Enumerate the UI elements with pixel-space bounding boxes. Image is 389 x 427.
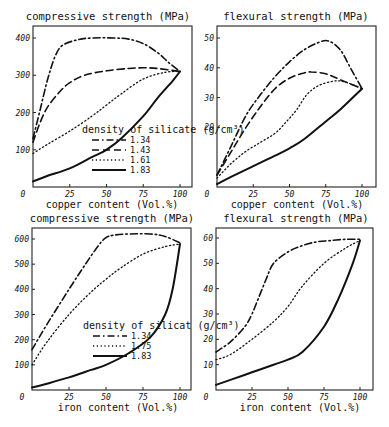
x-tick-label: 0 [205, 190, 210, 199]
x-tick-label: 0 [204, 393, 209, 402]
legend-entry-label: 1.61 [130, 155, 150, 165]
figure: compressive strength (MPa) copper conten… [0, 0, 389, 427]
y-tick-label: 30 [203, 94, 214, 103]
legend-entry-label: 1.43 [130, 145, 150, 155]
y-tick-label: 100 [15, 361, 30, 370]
x-tick-label: 25 [247, 393, 257, 402]
series-line-1-34 [217, 40, 362, 175]
panel-title: flexural strength (MPa) [223, 10, 368, 22]
x-tick-label: 50 [283, 393, 293, 402]
y-tick-label: 300 [14, 311, 30, 320]
panel-title: compressive strength (MPa) [26, 10, 190, 22]
plot-frame [216, 228, 373, 390]
x-tick-label: 100 [173, 393, 188, 402]
y-tick-label: 40 [203, 285, 213, 294]
y-tick-label: 600 [15, 235, 30, 244]
x-tick-label: 75 [321, 190, 331, 199]
x-tick-label: 100 [353, 393, 368, 402]
x-tick-label: 25 [65, 190, 75, 199]
y-tick-label: 20 [203, 335, 213, 344]
series-line-1-75 [32, 244, 180, 365]
y-tick-label: 500 [15, 260, 30, 269]
x-tick-label: 25 [248, 190, 258, 199]
x-axis-label: iron content (Vol.%) [58, 402, 178, 413]
y-tick-label: 50 [203, 259, 213, 268]
legend-title: density of silicate (g/cm³) [82, 124, 245, 135]
x-tick-label: 0 [21, 190, 26, 199]
y-tick-label: 300 [15, 71, 31, 80]
y-tick-label: 20 [204, 123, 214, 132]
plot-frame [33, 26, 192, 187]
y-tick-label: 400 [15, 285, 30, 294]
x-tick-label: 50 [102, 190, 112, 199]
series-line-1-61 [33, 71, 180, 153]
legend-entry-label: 1.34 [131, 331, 151, 341]
panel-flexural-copper: flexural strength (MPa) copper content (… [203, 10, 376, 210]
panel-flexural-iron: flexural strength (MPa) iron content (Vo… [202, 212, 373, 413]
y-tick-label: 10 [203, 361, 213, 370]
series-line-1-34 [216, 239, 360, 352]
x-tick-label: 50 [101, 393, 111, 402]
x-tick-label: 75 [138, 393, 148, 402]
x-tick-label: 25 [64, 393, 74, 402]
x-tick-label: 100 [355, 190, 370, 199]
series-line-1-83 [32, 244, 180, 388]
series-line-1-83 [216, 241, 360, 385]
legend-entry-label: 1.34 [130, 135, 150, 145]
x-axis-label: copper content (Vol.%) [46, 199, 178, 210]
x-axis-label: copper content (Vol.%) [231, 199, 363, 210]
y-tick-label: 100 [16, 146, 31, 155]
plot-frame [217, 26, 376, 187]
y-tick-label: 30 [202, 310, 213, 319]
y-tick-label: 400 [16, 34, 31, 43]
legend-entry-label: 1.83 [130, 165, 150, 175]
y-tick-label: 50 [204, 34, 214, 43]
series-line-1-83 [217, 89, 362, 184]
x-tick-label: 50 [285, 190, 295, 199]
x-tick-label: 0 [20, 393, 25, 402]
legend-entry-label: 1.75 [131, 341, 151, 351]
x-tick-label: 75 [319, 393, 329, 402]
y-tick-label: 200 [15, 336, 30, 345]
panel-title: flexural strength (MPa) [223, 212, 368, 224]
x-tick-label: 75 [138, 190, 148, 199]
legend-entry-label: 1.83 [131, 351, 151, 361]
x-axis-label: iron content (Vol.%) [240, 402, 360, 413]
legend: density of silicate (g/cm³)1.341.431.611… [82, 124, 245, 175]
x-tick-label: 100 [173, 190, 188, 199]
y-tick-label: 200 [16, 109, 31, 118]
y-tick-label: 40 [204, 64, 214, 73]
panel-title: compressive strength (MPa) [30, 212, 194, 224]
y-tick-label: 60 [203, 234, 213, 243]
